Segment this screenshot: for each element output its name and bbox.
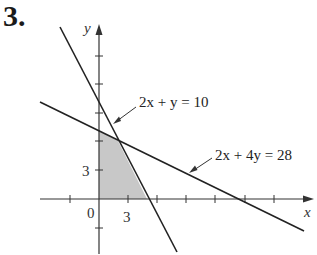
x-three-label: 3 bbox=[123, 209, 131, 225]
leader-eq2-arrow-icon bbox=[189, 166, 198, 174]
x-axis-label: x bbox=[303, 204, 311, 220]
eq1-label: 2x + y = 10 bbox=[139, 94, 208, 110]
origin-label: 0 bbox=[87, 205, 95, 221]
y-three-label: 3 bbox=[82, 163, 90, 179]
leader-eq1-arrow-icon bbox=[113, 117, 121, 125]
feasible-region bbox=[99, 131, 147, 199]
y-axis-arrow-icon bbox=[96, 24, 103, 35]
y-axis-label: y bbox=[82, 20, 91, 36]
x-axis-arrow-icon bbox=[303, 196, 314, 203]
leader-eq2 bbox=[194, 158, 212, 170]
eq2-label: 2x + 4y = 28 bbox=[215, 147, 292, 163]
feasible-region-graph: 2x + y = 10 2x + 4y = 28 0 3 3 x y bbox=[0, 0, 317, 255]
line-2x-plus-4y-eq-28 bbox=[40, 102, 304, 231]
